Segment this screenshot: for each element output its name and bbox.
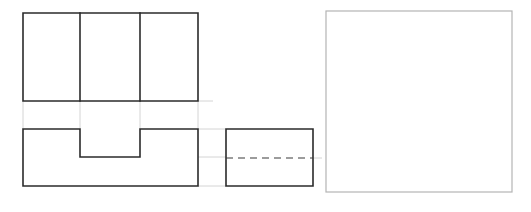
top-view-outline <box>23 13 198 101</box>
front-view <box>23 129 198 186</box>
side-view <box>226 129 313 186</box>
isometric-panel <box>326 11 512 192</box>
isometric-panel-outline <box>326 11 512 192</box>
top-view <box>23 13 198 101</box>
drawing-svg-root <box>0 0 531 212</box>
front-view-outline <box>23 129 198 186</box>
orthographic-drawing-canvas <box>0 0 531 212</box>
